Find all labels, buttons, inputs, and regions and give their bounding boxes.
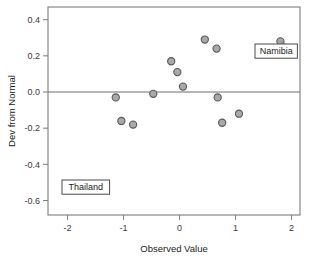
x-tick-label: -2 <box>64 223 72 233</box>
data-point-marker <box>112 94 119 101</box>
data-point-marker <box>179 83 186 90</box>
data-point-marker <box>174 69 181 76</box>
data-point-marker <box>235 110 242 117</box>
data-point-marker <box>213 45 220 52</box>
y-tick-label: 0.4 <box>27 15 40 25</box>
scatter-plot-figure: -2-1012 0.40.20.0-0.2-0.4-0.6 NamibiaTha… <box>0 0 320 260</box>
y-tick-label: -0.6 <box>24 196 40 206</box>
y-tick-label: -0.2 <box>24 123 40 133</box>
plot-canvas: -2-1012 0.40.20.0-0.2-0.4-0.6 NamibiaTha… <box>0 0 320 260</box>
data-point-marker <box>214 94 221 101</box>
y-tick-label: -0.4 <box>24 160 40 170</box>
data-point-marker <box>118 117 125 124</box>
data-point-marker <box>150 90 157 97</box>
y-axis-title: Dev from Normal <box>6 75 17 147</box>
annotation-label: Namibia <box>260 46 293 56</box>
data-point-marker <box>130 121 137 128</box>
annotation-label: Thailand <box>69 182 104 192</box>
data-point-marker <box>201 36 208 43</box>
y-tick-label: 0.0 <box>27 87 40 97</box>
x-tick-label: 2 <box>289 223 294 233</box>
data-point-marker <box>219 119 226 126</box>
y-tick-label: 0.2 <box>27 51 40 61</box>
data-points <box>64 36 284 190</box>
x-tick-label: 0 <box>177 223 182 233</box>
x-axis-title: Observed Value <box>140 243 207 254</box>
x-tick-label: 1 <box>233 223 238 233</box>
x-tick-label: -1 <box>120 223 128 233</box>
y-axis-ticks: 0.40.20.0-0.2-0.4-0.6 <box>24 15 48 206</box>
data-point-marker <box>168 58 175 65</box>
point-annotations: NamibiaThailand <box>62 41 297 194</box>
x-axis-ticks: -2-1012 <box>64 215 295 233</box>
